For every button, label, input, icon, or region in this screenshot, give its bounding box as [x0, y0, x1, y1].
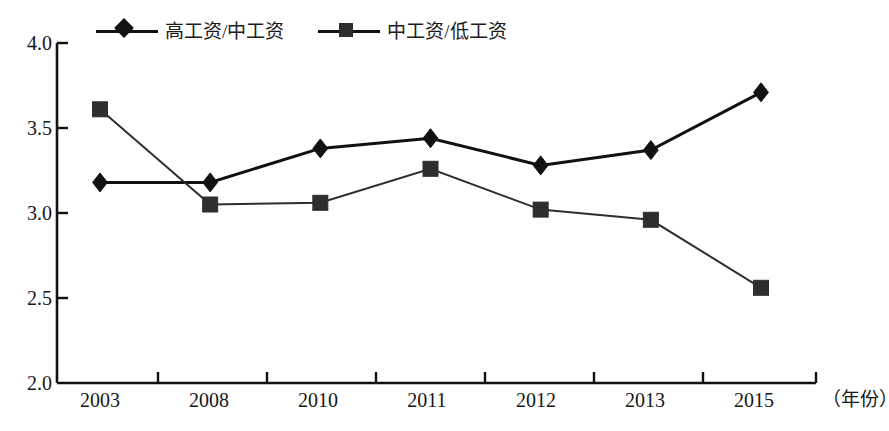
data-point-square	[643, 212, 658, 227]
data-point-diamond	[754, 83, 769, 102]
data-point-square	[93, 102, 108, 117]
line-chart: 高工资/中工资 中工资/低工资 4.0 3.5 3.0 2.5 2.0 2003…	[0, 0, 889, 431]
data-point-square	[754, 280, 769, 295]
data-point-diamond	[643, 141, 658, 160]
data-point-diamond	[533, 156, 548, 175]
data-point-square	[313, 195, 328, 210]
data-point-diamond	[423, 129, 438, 148]
y-axis-ticks	[57, 43, 68, 298]
data-point-square	[203, 197, 218, 212]
plot-area	[0, 0, 889, 431]
series-layer	[93, 83, 769, 295]
data-point-diamond	[93, 173, 108, 192]
x-axis-ticks	[158, 372, 816, 383]
data-point-diamond	[313, 139, 328, 158]
data-point-square	[533, 202, 548, 217]
data-point-square	[423, 161, 438, 176]
data-point-diamond	[203, 173, 218, 192]
